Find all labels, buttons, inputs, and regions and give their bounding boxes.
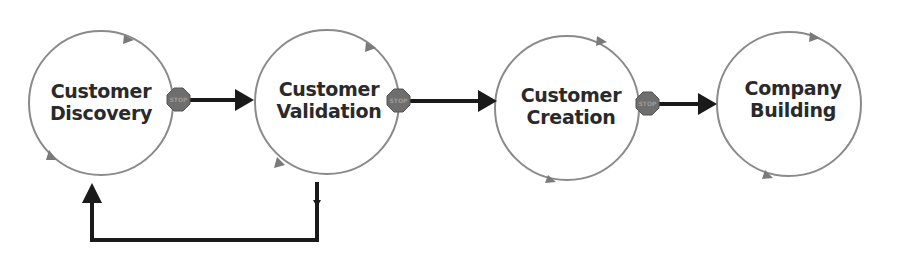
stop-label: STOP: [170, 96, 189, 103]
arrowhead-icon: [698, 93, 717, 115]
stage-label-company-building: Company Building: [723, 77, 863, 121]
small-arrowhead-icon: [313, 200, 321, 207]
stage-label-customer-validation: Customer Validation: [259, 78, 399, 122]
stage-label-customer-discovery: Customer Discovery: [31, 80, 171, 124]
stage-label-line2: Building: [723, 99, 863, 121]
stage-label-line1: Customer: [31, 80, 171, 102]
arrowhead-icon: [235, 89, 254, 111]
stage-label-line1: Company: [723, 77, 863, 99]
arrow-validation-loop-back-to-discovery: [82, 182, 321, 240]
stage-label-line1: Customer: [259, 78, 399, 100]
customer-development-diagram: STOP STOP STOP: [0, 0, 898, 258]
arrow-discovery-to-validation: [190, 89, 254, 111]
stage-label-line2: Creation: [501, 106, 641, 128]
arrowhead-icon: [82, 183, 102, 203]
stage-label-line2: Validation: [259, 100, 399, 122]
stop-label: STOP: [639, 100, 658, 107]
stage-label-line1: Customer: [501, 84, 641, 106]
arrow-validation-to-creation: [410, 90, 497, 112]
stage-label-customer-creation: Customer Creation: [501, 84, 641, 128]
arrow-creation-to-building: [655, 93, 717, 115]
stage-label-line2: Discovery: [31, 102, 171, 124]
